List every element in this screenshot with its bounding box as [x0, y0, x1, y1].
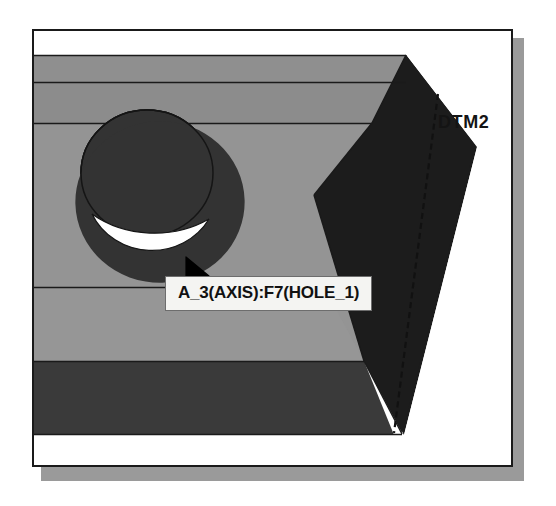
model-top-face-band-2 [34, 82, 406, 123]
hole-bore-shaded-fill [75, 121, 244, 283]
screenshot-root: DTM2 A_3(AXIS):F7(HOLE_1) [0, 0, 556, 506]
model-lower-dark-band [34, 361, 394, 435]
solid-model-geometry [34, 31, 511, 465]
model-viewport[interactable] [34, 31, 511, 465]
model-top-face-band-1 [34, 55, 406, 82]
entity-tooltip: A_3(AXIS):F7(HOLE_1) [165, 276, 372, 311]
datum-plane-dtm2-label[interactable]: DTM2 [438, 112, 489, 133]
cad-graphics-window: DTM2 A_3(AXIS):F7(HOLE_1) [32, 29, 513, 467]
viewport-background-top [34, 31, 511, 55]
